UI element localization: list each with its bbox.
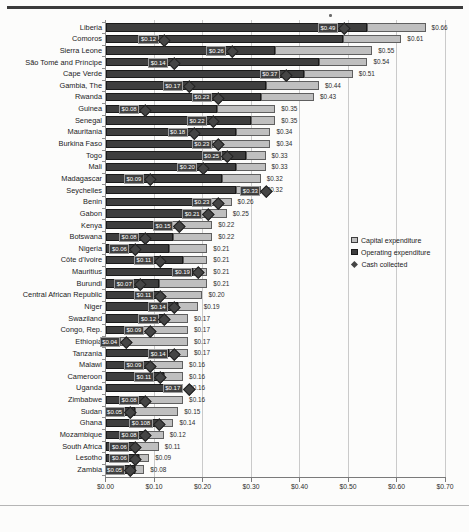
total-value-label: $0.20 [209,291,225,299]
country-label: Côte d'Ivoire [0,255,102,264]
operating-expenditure-bar [106,116,252,124]
total-value-label: $0.35 [281,105,297,113]
total-value-label: $0.33 [272,163,288,171]
capital-expenditure-bar [183,256,207,264]
total-value-label: $0.09 [155,454,171,462]
total-value-label: $0.51 [359,70,375,78]
total-value-label: $0.43 [320,93,336,101]
cash-collected-value-label: $0.17 [163,81,183,91]
x-axis-tick-label: $0.40 [284,482,316,491]
country-label: Niger [0,302,102,311]
operating-expenditure-bar [106,198,198,206]
capital-expenditure-bar [178,302,197,310]
cash-collected-value-label: $0.05 [105,465,125,475]
legend-item-cash-collected: Cash collected [351,260,430,268]
x-axis-tick-label: $0.70 [429,482,461,491]
total-value-label: $0.21 [213,268,229,276]
cash-collected-value-label: $0.09 [124,326,144,336]
country-label: Seychelles [0,186,102,195]
capital-expenditure-bar [251,116,275,124]
total-value-label: $0.34 [276,140,292,148]
total-value-label: $0.17 [194,349,210,357]
capital-expenditure-bar [261,93,314,101]
country-label: Nigeria [0,244,102,253]
cash-collected-value-label: $0.37 [260,70,280,80]
cash-collected-value-label: $0.11 [134,291,154,301]
cash-collected-value-label: $0.11 [134,256,154,266]
x-axis-line [105,477,447,478]
country-label: Guinea [0,104,102,113]
country-label: Cape Verde [0,69,102,78]
total-value-label: $0.55 [378,47,394,55]
total-value-label: $0.12 [170,431,186,439]
country-label: Mozambique [0,430,102,439]
cash-collected-value-label: $0.09 [124,174,144,184]
country-label: Tanzania [0,349,102,358]
legend-label: Operating expenditure [361,249,430,256]
legend-label: Cash collected [361,261,407,268]
legend-item-capital-expenditure: Capital expenditure [351,236,430,244]
country-label: Senegal [0,116,102,125]
total-value-label: $0.33 [272,152,288,160]
total-value-label: $0.44 [325,82,341,90]
operating-expenditure-bar [106,163,237,171]
capital-expenditure-swatch-icon [351,237,358,244]
total-value-label: $0.15 [184,408,200,416]
country-label: Liberia [0,23,102,32]
total-value-label: $0.21 [213,280,229,288]
cash-collected-value-label: $0.108 [129,419,152,429]
total-value-label: $0.19 [204,303,220,311]
total-value-label: $0.54 [373,58,389,66]
country-label: Uganda [0,383,102,392]
total-value-label: $0.17 [194,338,210,346]
country-label: Zimbabwe [0,395,102,404]
country-label: Lesotho [0,453,102,462]
country-label: Burkina Faso [0,139,102,148]
country-label: Mauritius [0,267,102,276]
country-label: Ghana [0,418,102,427]
cash-collected-value-label: $0.08 [119,105,139,115]
cash-collected-value-label: $0.06 [109,454,129,464]
capital-expenditure-bar [236,128,270,136]
capital-expenditure-bar [275,46,372,54]
total-value-label: $0.16 [189,361,205,369]
capital-expenditure-bar [173,233,212,241]
capital-expenditure-bar [164,372,183,380]
country-label: Mali [0,162,102,171]
cash-collected-value-label: $0.23 [192,93,212,103]
cash-collected-value-label: $0.15 [153,221,173,231]
operating-expenditure-bar [106,46,276,54]
total-value-label: $0.08 [150,466,166,474]
cash-collected-value-label: $0.49 [318,23,338,33]
country-label: Sudan [0,407,102,416]
cash-collected-value-label: $0.04 [100,337,120,347]
x-axis-tick-label: $0.10 [138,482,170,491]
total-value-label: $0.66 [432,24,448,32]
capital-expenditure-bar [222,174,261,182]
cash-collected-value-label: $0.19 [172,268,192,278]
cash-collected-value-label: $0.25 [202,151,222,161]
dot-artifact [329,14,332,17]
legend-item-operating-expenditure: Operating expenditure [351,248,430,256]
country-label: Togo [0,151,102,160]
country-label: Mauritania [0,127,102,136]
cash-collected-diamond-icon [351,261,358,268]
country-label: South Africa [0,442,102,451]
country-label: Zambia [0,465,102,474]
total-value-label: $0.21 [213,245,229,253]
country-label: Central African Republic [0,290,102,299]
x-axis-tick-label: $0.20 [187,482,219,491]
cash-collected-value-label: $0.12 [138,35,158,45]
cash-collected-value-label: $0.14 [148,349,168,359]
x-axis-tick-label: $0.00 [90,482,122,491]
capital-expenditure-bar [169,244,208,252]
x-axis-tick-label: $0.50 [332,482,364,491]
capital-expenditure-bar [367,23,425,31]
operating-expenditure-swatch-icon [351,249,358,256]
total-value-label: $0.26 [238,198,254,206]
cash-collected-value-label: $0.17 [163,384,183,394]
cash-collected-value-label: $0.26 [206,46,226,56]
capital-expenditure-bar [319,58,368,66]
total-value-label: $0.35 [281,117,297,125]
country-label: Gabon [0,209,102,218]
